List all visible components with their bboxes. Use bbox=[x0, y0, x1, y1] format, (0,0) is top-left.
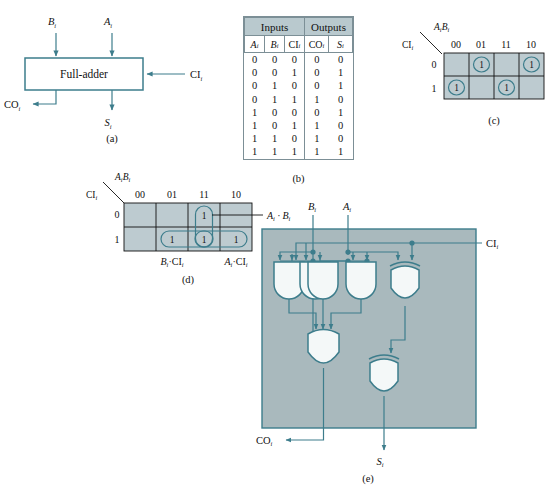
or-gate-1 bbox=[308, 330, 339, 364]
panel-b-truth-table-wrapper: Inputs Outputs Ai Bi CIi COi Si 00000001… bbox=[243, 16, 354, 184]
panel-d-cell-r1c3: 1 bbox=[234, 235, 239, 245]
table-cell-b: 1 bbox=[265, 132, 285, 145]
panel-d-caption: (d) bbox=[182, 274, 195, 286]
panel-d-label-b-and-ci: Bi·CIi bbox=[160, 256, 183, 268]
panel-d-col-header-01: 01 bbox=[167, 189, 177, 200]
panel-e-background bbox=[262, 229, 476, 428]
table-row: 11010 bbox=[245, 132, 353, 145]
truth-table: Inputs Outputs Ai Bi CIi COi Si 00000001… bbox=[244, 17, 353, 159]
table-cell-a: 0 bbox=[245, 93, 265, 106]
panel-c-row-header-0: 0 bbox=[432, 59, 437, 70]
table-cell-s: 0 bbox=[329, 53, 353, 67]
panel-e-svg: Bi Ai CIi bbox=[250, 188, 558, 485]
table-group-header-outputs: Outputs bbox=[305, 18, 353, 36]
panel-e-input-ci-label: CIi bbox=[486, 238, 499, 250]
table-cell-ci: 1 bbox=[285, 93, 305, 106]
panel-d-corner-diagonal bbox=[103, 182, 125, 204]
truth-table-body: 0000000101010010111010001101101101011111 bbox=[245, 53, 353, 159]
panel-d-cell-r0c2: 1 bbox=[202, 211, 207, 221]
table-cell-a: 1 bbox=[245, 145, 265, 158]
table-cell-b: 1 bbox=[265, 93, 285, 106]
panel-c-cell-value: 1 bbox=[454, 83, 459, 93]
panel-d-cell-r1c1: 1 bbox=[170, 235, 175, 245]
table-cell-ci: 1 bbox=[285, 145, 305, 158]
panel-a-output-co-label: COi bbox=[4, 99, 21, 112]
panel-e-junction-b-1 bbox=[310, 249, 315, 254]
table-cell-ci: 1 bbox=[285, 119, 305, 132]
panel-d-col-header-11: 11 bbox=[199, 189, 209, 200]
panel-d-label-a-and-ci: Ai·CIi bbox=[223, 256, 247, 268]
table-cell-co: 0 bbox=[305, 106, 329, 119]
table-cell-a: 0 bbox=[245, 79, 265, 92]
table-cell-a: 1 bbox=[245, 119, 265, 132]
table-cell-s: 1 bbox=[329, 66, 353, 79]
table-group-header-row: Inputs Outputs bbox=[245, 18, 353, 36]
panel-c-caption: (c) bbox=[488, 115, 500, 127]
table-row: 10001 bbox=[245, 106, 353, 119]
table-cell-s: 1 bbox=[329, 106, 353, 119]
panel-c-row-header-1: 1 bbox=[432, 83, 437, 94]
table-cell-s: 0 bbox=[329, 132, 353, 145]
panel-d-col-header-00: 00 bbox=[135, 189, 145, 200]
panel-a-caption: (a) bbox=[106, 133, 118, 145]
table-col-header-a: Ai bbox=[245, 36, 265, 53]
table-cell-s: 0 bbox=[329, 119, 353, 132]
table-group-header-inputs: Inputs bbox=[245, 18, 305, 36]
panel-c-col-header-01: 01 bbox=[476, 39, 486, 50]
table-cell-co: 0 bbox=[305, 53, 329, 67]
table-cell-ci: 0 bbox=[285, 79, 305, 92]
table-cell-b: 1 bbox=[265, 79, 285, 92]
table-cell-co: 1 bbox=[305, 93, 329, 106]
panel-d-row-var-label: CIi bbox=[86, 190, 98, 201]
table-cell-b: 0 bbox=[265, 106, 285, 119]
table-row: 01001 bbox=[245, 79, 353, 92]
table-cell-co: 1 bbox=[305, 132, 329, 145]
table-cell-b: 1 bbox=[265, 145, 285, 158]
table-cell-a: 0 bbox=[245, 66, 265, 79]
panel-e-output-co-label: COi bbox=[256, 435, 273, 447]
table-cell-co: 0 bbox=[305, 66, 329, 79]
panel-c-col-header-11: 11 bbox=[501, 39, 511, 50]
panel-e-junction-ci-1 bbox=[409, 240, 414, 245]
table-cell-a: 1 bbox=[245, 106, 265, 119]
table-row: 01110 bbox=[245, 93, 353, 106]
panel-a-svg: Full-adder Bi Ai CIi COi Si (a) bbox=[0, 0, 230, 145]
full-adder-block-label: Full-adder bbox=[60, 68, 108, 80]
panel-c-cell-value: 1 bbox=[529, 60, 534, 70]
table-cell-s: 0 bbox=[329, 93, 353, 106]
table-col-header-s: Si bbox=[329, 36, 353, 53]
panel-e-junction-a-1 bbox=[345, 249, 350, 254]
panel-a-output-s-label: Si bbox=[104, 117, 111, 130]
table-cell-b: 0 bbox=[265, 119, 285, 132]
panel-a-input-a-label: Ai bbox=[103, 16, 112, 29]
panel-d-col-var-label: AiBi bbox=[114, 172, 130, 183]
panel-e-input-b-label: Bi bbox=[308, 201, 316, 213]
panel-d-row-header-0: 0 bbox=[115, 209, 120, 220]
table-cell-b: 0 bbox=[265, 66, 285, 79]
table-cell-co: 1 bbox=[305, 119, 329, 132]
table-cell-s: 1 bbox=[329, 79, 353, 92]
panel-a-input-ci-label: CIi bbox=[190, 69, 203, 82]
panel-c-kmap-sum: AiBi CIi 00 01 11 10 0 1 1 1 1 1 bbox=[398, 8, 558, 138]
and-gate-3 bbox=[346, 262, 376, 299]
panel-d-row-header-1: 1 bbox=[115, 234, 120, 245]
table-cell-ci: 1 bbox=[285, 66, 305, 79]
table-cell-b: 0 bbox=[265, 53, 285, 67]
table-cell-co: 1 bbox=[305, 145, 329, 158]
table-cell-ci: 0 bbox=[285, 53, 305, 67]
panel-a-block-diagram: Full-adder Bi Ai CIi COi Si (a) bbox=[0, 0, 230, 145]
panel-c-cell-value: 1 bbox=[504, 83, 509, 93]
panel-e-logic-circuit: Bi Ai CIi bbox=[250, 188, 558, 485]
table-col-header-ci: CIi bbox=[285, 36, 305, 53]
panel-d-cell-r1c2: 1 bbox=[202, 235, 207, 245]
panel-c-row-var-label: CIi bbox=[402, 40, 414, 51]
table-cell-co: 0 bbox=[305, 79, 329, 92]
table-col-header-co: COi bbox=[305, 36, 329, 53]
table-cell-a: 1 bbox=[245, 132, 265, 145]
panel-a-input-b-label: Bi bbox=[48, 16, 56, 29]
panel-c-col-header-10: 10 bbox=[526, 39, 536, 50]
table-row: 10110 bbox=[245, 119, 353, 132]
panel-c-cell-value: 1 bbox=[479, 60, 484, 70]
table-cell-a: 0 bbox=[245, 53, 265, 67]
panel-a-output-co-wire bbox=[33, 90, 56, 104]
